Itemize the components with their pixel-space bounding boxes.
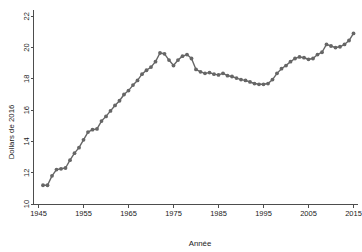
data-point: [113, 104, 117, 108]
data-point: [208, 71, 212, 75]
x-tick-label: 1975: [165, 209, 182, 218]
data-point: [122, 93, 126, 97]
y-tick-label: 20: [22, 43, 31, 51]
data-point: [244, 79, 248, 83]
x-tick-label: 1945: [30, 209, 47, 218]
data-point: [253, 82, 257, 86]
data-point: [185, 53, 189, 57]
data-point: [145, 68, 149, 72]
data-point: [158, 51, 162, 55]
data-point: [343, 43, 347, 47]
data-point: [212, 72, 216, 76]
data-point: [140, 72, 144, 76]
data-point: [316, 53, 320, 57]
data-point: [338, 45, 342, 49]
data-point: [50, 174, 54, 178]
data-point: [235, 76, 239, 80]
data-point: [311, 57, 315, 61]
data-point: [118, 99, 122, 103]
data-point: [95, 127, 99, 131]
data-point: [257, 82, 261, 86]
data-point: [127, 89, 131, 93]
y-axis-title: Dollars de 2016: [7, 105, 16, 160]
data-point: [298, 55, 302, 59]
data-point: [226, 74, 230, 78]
data-point: [248, 80, 252, 84]
data-point: [271, 78, 275, 82]
data-point: [289, 60, 293, 64]
data-point: [55, 168, 59, 172]
data-point: [181, 54, 185, 58]
x-tick-label: 1995: [255, 209, 272, 218]
y-axis-ticks: 10121416182022: [22, 12, 34, 208]
data-point: [77, 146, 81, 150]
data-point: [307, 57, 311, 61]
data-point: [68, 158, 72, 162]
data-point: [104, 114, 108, 118]
data-point: [190, 57, 194, 61]
data-point: [73, 151, 77, 155]
data-point: [100, 119, 104, 123]
data-point: [280, 67, 284, 71]
data-point: [203, 71, 207, 75]
y-tick-label: 18: [22, 75, 31, 83]
x-tick-label: 1985: [210, 209, 227, 218]
data-line: [43, 33, 354, 185]
data-markers: [41, 32, 355, 188]
data-point: [329, 44, 333, 48]
data-point: [262, 82, 266, 86]
y-tick-label: 10: [22, 200, 31, 208]
data-point: [59, 167, 63, 171]
data-point: [266, 82, 270, 86]
data-point: [41, 183, 45, 187]
data-point: [217, 73, 221, 77]
x-axis-title: Année: [189, 239, 212, 248]
data-point: [154, 60, 158, 64]
data-point: [334, 46, 338, 50]
data-point: [352, 32, 356, 36]
data-point: [163, 52, 167, 56]
data-point: [131, 83, 135, 87]
data-point: [284, 64, 288, 68]
data-point: [230, 75, 234, 79]
data-point: [221, 71, 225, 75]
chart-figure: Dollars de 2016 Année 10121416182022 194…: [0, 0, 362, 252]
data-point: [176, 58, 180, 62]
x-tick-label: 2005: [300, 209, 317, 218]
data-point: [325, 43, 329, 47]
data-point: [109, 109, 113, 113]
data-point: [46, 183, 50, 187]
data-point: [172, 64, 176, 68]
data-point: [64, 166, 68, 170]
data-point: [91, 128, 95, 132]
y-tick-label: 22: [22, 12, 31, 20]
x-tick-label: 2015: [345, 209, 362, 218]
data-point: [149, 65, 153, 69]
x-tick-label: 1965: [120, 209, 137, 218]
data-point: [199, 70, 203, 74]
data-point: [167, 58, 171, 62]
data-point: [293, 57, 297, 61]
x-axis-ticks: 19451955196519751985199520052015: [30, 204, 362, 218]
data-point: [239, 78, 243, 82]
x-tick-label: 1955: [75, 209, 92, 218]
data-point: [86, 130, 90, 134]
data-point: [82, 138, 86, 142]
data-point: [347, 39, 351, 43]
y-tick-label: 16: [22, 106, 31, 114]
line-chart: Dollars de 2016 Année 10121416182022 194…: [0, 0, 362, 252]
data-point: [136, 79, 140, 83]
data-point: [194, 68, 198, 72]
data-point: [320, 50, 324, 54]
data-point: [302, 56, 306, 60]
y-tick-label: 12: [22, 169, 31, 177]
data-point: [275, 71, 279, 75]
y-tick-label: 14: [22, 137, 31, 145]
